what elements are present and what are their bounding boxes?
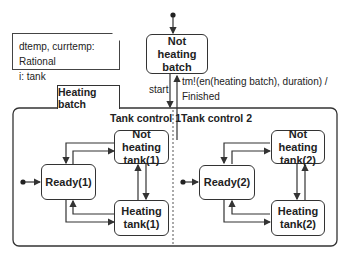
state-not-heating-tank-2[interactable]: Not heating tank(2) — [271, 130, 325, 164]
state-ready-1[interactable]: Ready(1) — [41, 164, 96, 200]
state-heating-tank-2[interactable]: Heating tank(2) — [271, 200, 325, 236]
note-line-2: i: tank — [19, 69, 113, 84]
transition-label-start: start — [149, 84, 168, 96]
state-label-line-2: tank(2) — [280, 218, 316, 231]
state-not-heating-batch[interactable]: Not heating batch — [146, 34, 208, 74]
state-not-heating-tank-1[interactable]: Not heating tank(1) — [114, 130, 169, 164]
state-heating-tank-1[interactable]: Heating tank(1) — [114, 200, 169, 236]
state-label-line-2: tank(1) — [123, 154, 159, 167]
note-line-1: dtemp, currtemp: Rational — [19, 39, 113, 69]
state-label-line-1: Not heating — [272, 128, 324, 154]
composite-tab-heating-batch: Heating batch — [57, 85, 120, 109]
note-fold-corner — [112, 33, 120, 41]
state-label-line-1: Heating — [278, 205, 318, 218]
transition-label-finish-action: Finished — [182, 91, 220, 103]
state-label-line-1: Heating — [121, 205, 161, 218]
initial-node-top — [170, 12, 175, 17]
state-label: Ready(2) — [204, 176, 250, 189]
state-label-line-2: batch — [162, 61, 191, 74]
state-ready-2[interactable]: Ready(2) — [199, 165, 255, 200]
state-label-line-2: tank(2) — [280, 154, 316, 167]
state-label-line-1: Not heating — [115, 128, 168, 154]
state-label-line-2: tank(1) — [123, 218, 159, 231]
declaration-note: dtemp, currtemp: Rational i: tank — [12, 33, 120, 70]
state-label: Ready(1) — [45, 176, 91, 189]
region-title-tank-control-1: Tank control 1 — [110, 112, 181, 124]
transition-label-finish-guard: tm!(en(heating batch), duration) / — [182, 76, 328, 88]
state-label-line-1: Not heating — [147, 35, 207, 61]
region-title-tank-control-2: Tank control 2 — [181, 112, 252, 124]
